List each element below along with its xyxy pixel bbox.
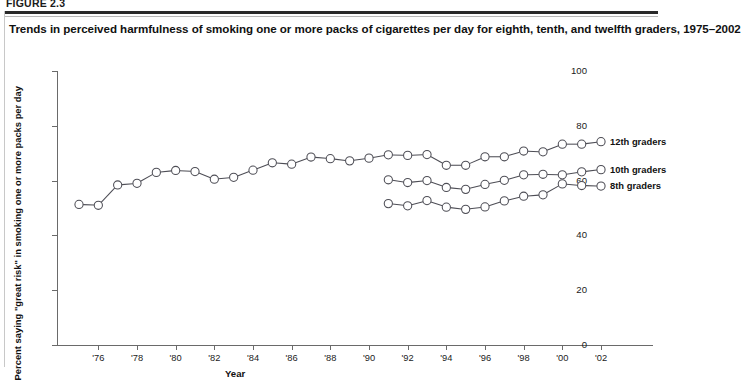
data-point <box>539 191 547 199</box>
plot-area: 020406080100 '76'78'80'82'84'86'88'90'92… <box>57 71 597 345</box>
data-point <box>249 166 257 174</box>
series-segment <box>257 164 269 168</box>
series-segment <box>586 170 597 171</box>
data-point <box>384 151 392 159</box>
data-point <box>404 151 412 159</box>
data-point <box>558 171 566 179</box>
x-tick-label: '88 <box>324 353 336 363</box>
series-segment <box>431 182 443 186</box>
series-segment <box>160 171 171 172</box>
series-segment <box>315 157 326 158</box>
series-segment <box>218 178 229 179</box>
series-segment <box>469 158 481 163</box>
data-point <box>520 192 528 200</box>
data-point <box>346 157 354 165</box>
data-point <box>481 153 489 161</box>
x-tick-label: '82 <box>208 353 220 363</box>
series-segment <box>431 157 443 164</box>
data-point <box>578 140 586 148</box>
series-2 <box>384 166 605 194</box>
series-segment <box>392 204 403 205</box>
series-segment <box>431 202 443 206</box>
data-point <box>210 175 218 183</box>
data-point <box>520 171 528 179</box>
x-tick-label: '92 <box>402 353 414 363</box>
series-segment <box>122 184 133 185</box>
data-point <box>578 168 586 176</box>
series-segment <box>141 174 153 181</box>
data-point <box>578 181 586 189</box>
series-segment <box>566 184 577 185</box>
data-point <box>442 183 450 191</box>
data-point <box>133 179 141 187</box>
data-point <box>326 155 334 163</box>
x-tick-label: '90 <box>363 353 375 363</box>
data-point <box>558 140 566 148</box>
data-point <box>423 177 431 185</box>
data-point <box>500 153 508 161</box>
series-segment <box>508 152 519 155</box>
data-point <box>462 161 470 169</box>
series-segment <box>276 163 287 164</box>
series-segment <box>450 208 461 209</box>
data-point <box>404 178 412 186</box>
series-segment <box>528 195 539 196</box>
data-point <box>597 138 605 146</box>
top-rule-thin <box>4 16 658 17</box>
series-segment <box>586 142 597 143</box>
data-point <box>75 200 83 208</box>
data-point <box>288 160 296 168</box>
x-tick-label: '98 <box>518 353 530 363</box>
x-tick-label: '76 <box>92 353 104 363</box>
data-point <box>94 201 102 209</box>
data-point <box>539 170 547 178</box>
data-point <box>481 203 489 211</box>
series-layer <box>57 71 657 351</box>
data-point <box>384 200 392 208</box>
data-point <box>597 182 605 190</box>
series-segment <box>101 188 115 202</box>
chart-title: Trends in perceived harmfulness of smoki… <box>9 22 655 36</box>
series-segment <box>547 186 559 193</box>
series-label-3: 8th graders <box>610 180 661 191</box>
x-tick-label: '94 <box>440 353 452 363</box>
series-segment <box>373 156 384 158</box>
left-frame-border <box>4 11 5 367</box>
x-tick-label: '00 <box>556 353 568 363</box>
data-point <box>442 161 450 169</box>
series-segment <box>180 171 191 172</box>
series-segment <box>450 188 461 189</box>
x-tick-label: '86 <box>286 353 298 363</box>
figure-label: FIGURE 2.3 <box>6 0 65 9</box>
series-segment <box>470 185 481 188</box>
data-point <box>230 173 238 181</box>
series-segment <box>238 172 250 176</box>
series-segment <box>470 207 481 208</box>
x-tick-label: '02 <box>595 353 607 363</box>
series-segment <box>334 159 345 160</box>
data-point <box>558 180 566 188</box>
series-segment <box>296 158 308 162</box>
x-tick-label: '96 <box>479 353 491 363</box>
data-point <box>307 153 315 161</box>
series-3 <box>384 180 605 214</box>
data-point <box>520 147 528 155</box>
series-segment <box>354 159 365 161</box>
series-label-2: 10th graders <box>610 164 666 175</box>
x-tick-label: '78 <box>131 353 143 363</box>
series-segment <box>392 180 403 182</box>
data-point <box>539 148 547 156</box>
data-point <box>462 205 470 213</box>
data-point <box>442 203 450 211</box>
data-point <box>114 181 122 189</box>
data-point <box>481 180 489 188</box>
series-segment <box>566 172 577 174</box>
data-point <box>423 197 431 205</box>
data-point <box>462 185 470 193</box>
x-tick-label: '84 <box>247 353 259 363</box>
series-segment <box>508 197 519 200</box>
data-point <box>172 166 180 174</box>
data-point <box>597 166 605 174</box>
series-label-1: 12th graders <box>610 136 666 147</box>
